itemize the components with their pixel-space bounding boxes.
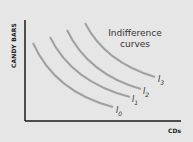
title-line-2: curves xyxy=(100,39,170,50)
curve-label-i3: I3 xyxy=(158,75,164,86)
x-axis-label: CDs xyxy=(168,127,181,134)
curve-i0 xyxy=(33,43,113,107)
indifference-curve-diagram: CANDY BARS CDs Indifference curves I0 I1… xyxy=(0,0,193,142)
curve-label-i0: I0 xyxy=(116,106,122,117)
curve-label-i1: I1 xyxy=(132,95,138,106)
y-axis-label: CANDY BARS xyxy=(10,11,17,81)
curve-label-i2: I2 xyxy=(143,87,149,98)
plot-area xyxy=(0,0,193,142)
title-line-1: Indifference xyxy=(100,28,170,39)
chart-title: Indifference curves xyxy=(100,28,170,50)
